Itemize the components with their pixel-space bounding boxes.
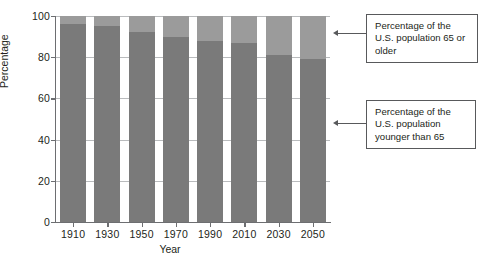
y-axis-tick: [51, 98, 56, 99]
bar-segment-older-2050: [300, 16, 326, 59]
y-axis-tick: [51, 57, 56, 58]
x-axis-tick-label: 1970: [164, 228, 188, 240]
annotation-older-arrow-icon: [333, 30, 338, 36]
bar-segment-older-2030: [266, 16, 292, 55]
bar-segment-older-1950: [129, 16, 155, 32]
y-axis-tick-label: 60: [38, 92, 50, 104]
bar-segment-younger-2030: [266, 55, 292, 222]
x-axis-tick: [73, 222, 74, 227]
bar-segment-younger-2010: [231, 43, 257, 222]
x-axis-tick-label: 2030: [267, 228, 291, 240]
x-axis-tick-label: 2050: [301, 228, 325, 240]
x-axis-tick-label: 1910: [61, 228, 85, 240]
bar-1910: [60, 16, 86, 222]
x-axis-title: Year: [0, 243, 340, 255]
y-axis-tick: [51, 140, 56, 141]
bar-segment-younger-1950: [129, 32, 155, 222]
bar-segment-younger-2050: [300, 59, 326, 222]
bar-2010: [231, 16, 257, 222]
plot-area: [56, 16, 330, 222]
annotation-younger-text: Percentage of the U.S. population younge…: [375, 106, 451, 142]
annotation-younger-box: Percentage of the U.S. population younge…: [366, 100, 476, 149]
bar-segment-younger-1930: [94, 26, 120, 222]
y-axis-tick-label: 80: [38, 51, 50, 63]
annotation-older-text: Percentage of the U.S. population 65 or …: [375, 20, 465, 56]
bar-segment-younger-1970: [163, 37, 189, 222]
x-axis-tick: [279, 222, 280, 227]
bar-1950: [129, 16, 155, 222]
bar-1990: [197, 16, 223, 222]
x-axis-tick: [210, 222, 211, 227]
y-axis-tick: [51, 222, 56, 223]
y-axis-tick-label: 100: [32, 10, 50, 22]
x-axis-tick: [244, 222, 245, 227]
bar-segment-older-1970: [163, 16, 189, 37]
y-axis-tick-label: 40: [38, 134, 50, 146]
x-axis-tick: [142, 222, 143, 227]
x-axis-tick: [313, 222, 314, 227]
chart-figure: 020406080100 Percentage Year Percentage …: [0, 0, 480, 269]
y-axis-tick-label: 20: [38, 175, 50, 187]
bar-segment-older-1910: [60, 16, 86, 24]
x-axis-line: [55, 222, 331, 223]
bar-2030: [266, 16, 292, 222]
y-axis-title: Percentage: [0, 34, 10, 88]
bar-segment-older-2010: [231, 16, 257, 43]
annotation-younger-leader: [338, 123, 366, 124]
annotation-younger-arrow-icon: [333, 120, 338, 126]
annotation-older-leader: [338, 33, 366, 34]
x-axis-tick: [176, 222, 177, 227]
y-axis-tick: [51, 181, 56, 182]
bar-segment-younger-1910: [60, 24, 86, 222]
y-axis-tick: [51, 16, 56, 17]
bar-1930: [94, 16, 120, 222]
annotation-older-box: Percentage of the U.S. population 65 or …: [366, 14, 478, 63]
bar-segment-younger-1990: [197, 41, 223, 222]
y-axis-tick-label: 0: [44, 216, 50, 228]
bar-segment-older-1990: [197, 16, 223, 41]
x-axis-tick-label: 1930: [95, 228, 119, 240]
bar-segment-older-1930: [94, 16, 120, 26]
x-axis-tick-label: 1950: [130, 228, 154, 240]
bar-1970: [163, 16, 189, 222]
x-axis-tick-label: 1990: [198, 228, 222, 240]
x-axis-tick: [107, 222, 108, 227]
bar-2050: [300, 16, 326, 222]
x-axis-tick-label: 2010: [232, 228, 256, 240]
